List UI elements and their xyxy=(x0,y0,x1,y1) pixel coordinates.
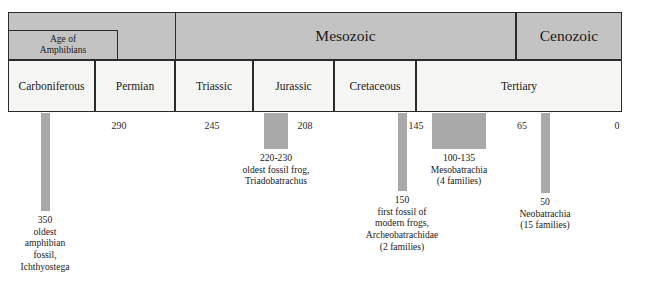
axis-tick-290: 290 xyxy=(112,120,127,131)
event-desc-line: (15 families) xyxy=(519,219,570,231)
axis-tick-245: 245 xyxy=(205,120,220,131)
event-desc-line: oldest xyxy=(20,226,69,238)
event-bar-triadobatrachus xyxy=(264,113,288,149)
event-desc-line: Triadobatrachus xyxy=(243,175,310,187)
event-desc-line: fossil, xyxy=(20,249,69,261)
period-label-cretaceous: Cretaceous xyxy=(349,80,400,93)
axis-tick-208: 208 xyxy=(298,120,313,131)
period-label-triassic: Triassic xyxy=(196,80,232,93)
event-desc-line: Neobatrachia xyxy=(519,208,570,220)
era-label-cenozoic: Cenozoic xyxy=(540,27,599,44)
event-bar-archeobatrachidae xyxy=(398,113,407,191)
sub-era-cell-age-of-amphibians: Age of Amphibians xyxy=(8,30,118,60)
event-note-archeobatrachidae: 150 first fossil of modern frogs, Archeo… xyxy=(366,194,438,253)
event-value-neobatrachia: 50 xyxy=(519,196,570,208)
event-note-mesobatrachia: 100-135 Mesobatrachia (4 families) xyxy=(431,152,487,187)
event-note-neobatrachia: 50 Neobatrachia (15 families) xyxy=(519,196,570,231)
geologic-timeline-figure: Mesozoic Cenozoic Age of Amphibians Carb… xyxy=(0,0,656,297)
event-desc-line: Ichthyostega xyxy=(20,261,69,273)
event-bar-neobatrachia xyxy=(541,113,550,193)
axis-tick-145: 145 xyxy=(409,120,424,131)
period-label-tertiary: Tertiary xyxy=(501,80,537,93)
event-desc-line: amphibian xyxy=(20,237,69,249)
event-value-mesobatrachia: 100-135 xyxy=(431,152,487,164)
period-cell-tertiary: Tertiary xyxy=(416,60,622,112)
era-cell-cenozoic: Cenozoic xyxy=(516,12,622,60)
sub-era-label-line1: Age of xyxy=(50,34,76,45)
event-bar-ichthyostega xyxy=(41,113,50,211)
period-cell-jurassic: Jurassic xyxy=(253,60,334,112)
period-label-jurassic: Jurassic xyxy=(275,80,311,93)
era-cell-mesozoic: Mesozoic xyxy=(175,12,516,60)
period-cell-permian: Permian xyxy=(95,60,175,112)
axis-tick-0: 0 xyxy=(615,120,620,131)
event-bar-mesobatrachia xyxy=(432,113,486,149)
axis-tick-65: 65 xyxy=(517,120,527,131)
period-cell-carboniferous: Carboniferous xyxy=(8,60,95,112)
event-value-archeobatrachidae: 150 xyxy=(366,194,438,206)
era-label-mesozoic: Mesozoic xyxy=(315,27,375,44)
event-note-triadobatrachus: 220-230 oldest fossil frog, Triadobatrac… xyxy=(243,152,310,187)
event-note-ichthyostega: 350 oldest amphibian fossil, Ichthyosteg… xyxy=(20,214,69,273)
event-desc-line: (4 families) xyxy=(431,175,487,187)
period-cell-cretaceous: Cretaceous xyxy=(334,60,416,112)
event-desc-line: Mesobatrachia xyxy=(431,164,487,176)
event-desc-line: Archeobatrachidae xyxy=(366,229,438,241)
period-cell-triassic: Triassic xyxy=(175,60,253,112)
event-value-triadobatrachus: 220-230 xyxy=(243,152,310,164)
sub-era-label-line2: Amphibians xyxy=(40,45,86,56)
event-desc-line: first fossil of xyxy=(366,206,438,218)
event-value-ichthyostega: 350 xyxy=(20,214,69,226)
event-desc-line: modern frogs, xyxy=(366,217,438,229)
period-label-permian: Permian xyxy=(116,80,154,93)
period-label-carboniferous: Carboniferous xyxy=(19,80,85,93)
event-desc-line: (2 families) xyxy=(366,241,438,253)
event-desc-line: oldest fossil frog, xyxy=(243,164,310,176)
